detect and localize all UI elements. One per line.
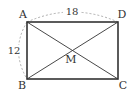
label-12: 12	[8, 45, 21, 56]
vertex-a-label: A	[18, 8, 28, 21]
label-18: 18	[66, 6, 79, 17]
vertex-c-label: C	[119, 79, 127, 92]
intersection-m-label: M	[65, 53, 76, 66]
geometry-diagram: 18 12 A D B C M	[0, 0, 134, 97]
vertex-b-label: B	[18, 79, 26, 92]
vertex-d-label: D	[118, 8, 127, 21]
